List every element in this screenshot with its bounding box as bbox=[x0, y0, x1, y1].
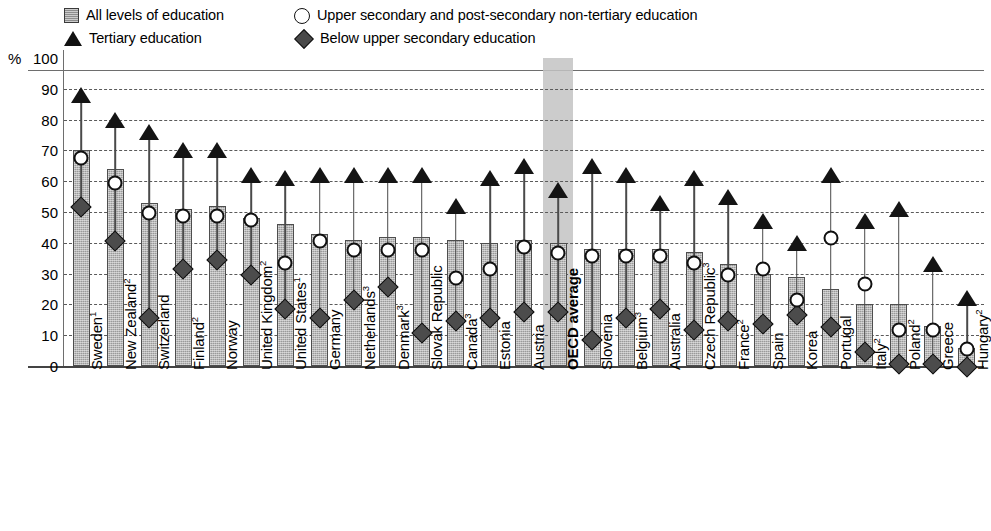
diamond-swatch-icon bbox=[294, 29, 314, 49]
marker-tertiary-education bbox=[514, 158, 534, 174]
marker-tertiary-education bbox=[889, 201, 909, 217]
x-axis-label-oecd-average: OECD average bbox=[564, 268, 581, 370]
x-axis-label-norway: Norway bbox=[223, 320, 240, 370]
chart-column bbox=[507, 58, 541, 366]
marker-upper-secondary bbox=[551, 246, 566, 261]
y-axis-tick: 70 bbox=[2, 142, 58, 159]
circle-swatch-icon bbox=[294, 8, 310, 24]
marker-tertiary-education bbox=[616, 167, 636, 183]
marker-tertiary-education bbox=[821, 167, 841, 183]
y-axis-tick: 100 bbox=[2, 50, 58, 67]
marker-connector-line bbox=[353, 175, 355, 292]
marker-tertiary-education bbox=[650, 195, 670, 211]
y-axis-tick: 10 bbox=[2, 327, 58, 344]
marker-connector-line bbox=[625, 175, 627, 311]
x-axis-label-switzerland: Switzerland bbox=[155, 295, 172, 370]
x-axis-label-portugal: Portugal bbox=[837, 316, 854, 370]
x-axis-label-poland: Poland2 bbox=[905, 319, 923, 370]
y-axis-tick: 20 bbox=[2, 296, 58, 313]
marker-connector-line bbox=[80, 95, 82, 200]
marker-upper-secondary bbox=[619, 249, 634, 264]
x-axis-label-netherlands: Netherlands3 bbox=[360, 286, 378, 370]
marker-upper-secondary bbox=[448, 271, 463, 286]
marker-upper-secondary bbox=[857, 277, 872, 292]
x-axis-label-estonia: Estonia bbox=[496, 321, 513, 370]
marker-connector-line bbox=[217, 150, 219, 252]
marker-upper-secondary bbox=[414, 243, 429, 258]
marker-connector-line bbox=[387, 175, 389, 280]
legend-item-below-upper-secondary: Below upper secondary education bbox=[294, 27, 535, 50]
marker-tertiary-education bbox=[310, 167, 330, 183]
x-axis-label-hungary: Hungary2 bbox=[973, 310, 991, 370]
x-axis-label-czech-republic: Czech Republic3 bbox=[700, 263, 718, 370]
triangle-swatch-icon bbox=[64, 31, 82, 46]
legend-item-all-levels: All levels of education bbox=[64, 4, 294, 27]
x-axis-label-slovenia: Slovenia bbox=[598, 314, 615, 370]
x-axis-label-france: France2 bbox=[734, 319, 752, 370]
x-axis-label-new-zealand: New Zealand2 bbox=[121, 279, 139, 370]
marker-connector-line bbox=[728, 197, 730, 314]
marker-tertiary-education bbox=[446, 198, 466, 214]
marker-tertiary-education bbox=[582, 158, 602, 174]
x-axis-label-finland: Finland2 bbox=[189, 317, 207, 370]
marker-tertiary-education bbox=[139, 124, 159, 140]
legend-label-tertiary: Tertiary education bbox=[89, 31, 202, 46]
marker-upper-secondary bbox=[482, 261, 497, 276]
marker-connector-line bbox=[489, 178, 491, 310]
x-axis-label-italy: Italy2 bbox=[871, 338, 889, 370]
legend-label-below-upper-secondary: Below upper secondary education bbox=[320, 31, 535, 46]
marker-tertiary-education bbox=[957, 290, 977, 306]
marker-tertiary-education bbox=[787, 235, 807, 251]
x-axis-label-slovak-republic: Slovak Republic bbox=[428, 265, 445, 370]
marker-upper-secondary bbox=[108, 175, 123, 190]
marker-tertiary-education bbox=[684, 170, 704, 186]
y-axis-tick: 50 bbox=[2, 204, 58, 221]
legend-label-all-levels: All levels of education bbox=[86, 8, 224, 23]
y-axis-tick: 40 bbox=[2, 234, 58, 251]
marker-upper-secondary bbox=[823, 230, 838, 245]
x-axis-label-greece: Greece bbox=[939, 322, 956, 370]
marker-tertiary-education bbox=[718, 189, 738, 205]
legend-row-2: Tertiary education Below upper secondary… bbox=[64, 27, 954, 50]
x-axis-label-united-states: United States1 bbox=[291, 277, 309, 370]
marker-connector-line bbox=[182, 150, 184, 261]
marker-tertiary-education bbox=[344, 167, 364, 183]
marker-upper-secondary bbox=[585, 249, 600, 264]
marker-upper-secondary bbox=[74, 150, 89, 165]
marker-tertiary-education bbox=[412, 167, 432, 183]
marker-upper-secondary bbox=[210, 209, 225, 224]
marker-upper-secondary bbox=[346, 243, 361, 258]
marker-tertiary-education bbox=[923, 256, 943, 272]
marker-upper-secondary bbox=[755, 261, 770, 276]
y-axis-ticks: 1009080706050403020100 bbox=[0, 58, 58, 366]
x-axis-labels: Sweden1New Zealand2SwitzerlandFinland2No… bbox=[64, 368, 984, 530]
marker-upper-secondary bbox=[721, 267, 736, 282]
legend-label-upper-secondary: Upper secondary and post-secondary non-t… bbox=[317, 8, 697, 23]
marker-upper-secondary bbox=[380, 243, 395, 258]
marker-tertiary-education bbox=[105, 112, 125, 128]
marker-tertiary-education bbox=[241, 167, 261, 183]
x-axis-label-belgium: Belgium3 bbox=[632, 312, 650, 370]
marker-connector-line bbox=[830, 175, 832, 320]
marker-connector-line bbox=[455, 206, 457, 314]
marker-tertiary-education bbox=[548, 182, 568, 198]
marker-tertiary-education bbox=[753, 213, 773, 229]
marker-connector-line bbox=[694, 178, 696, 323]
marker-connector-line bbox=[523, 166, 525, 305]
y-axis-tick: 60 bbox=[2, 173, 58, 190]
x-axis-label-australia: Australia bbox=[666, 313, 683, 370]
x-axis-label-austria: Austria bbox=[530, 325, 547, 370]
marker-tertiary-education bbox=[207, 142, 227, 158]
legend-item-tertiary: Tertiary education bbox=[64, 27, 294, 50]
chart-column bbox=[780, 58, 814, 366]
y-axis-tick: 30 bbox=[2, 265, 58, 282]
marker-upper-secondary bbox=[653, 249, 668, 264]
x-axis-label-united-kingdom: United Kingdom2 bbox=[257, 261, 275, 370]
square-swatch-icon bbox=[64, 8, 79, 23]
x-axis-label-sweden: Sweden1 bbox=[87, 312, 105, 370]
marker-upper-secondary bbox=[789, 292, 804, 307]
legend-row-1: All levels of education Upper secondary … bbox=[64, 4, 954, 27]
marker-tertiary-education bbox=[378, 167, 398, 183]
marker-tertiary-education bbox=[855, 213, 875, 229]
